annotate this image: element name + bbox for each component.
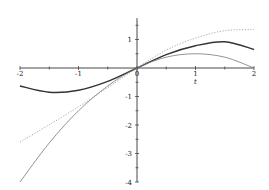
y-tick-label: -4	[125, 179, 132, 187]
x-axis-label: t	[194, 78, 197, 86]
y-tick-label: 1	[128, 36, 132, 44]
x-tick-label: 0	[135, 70, 139, 78]
axes	[20, 18, 254, 182]
x-tick-label: 1	[193, 70, 197, 78]
y-tick-label: -3	[125, 150, 132, 158]
tick-labels: -2-10121-1-2-3-4t	[17, 36, 257, 187]
x-tick-label: 2	[252, 70, 256, 78]
y-tick-label: -1	[125, 93, 132, 101]
y-tick-label: -2	[125, 122, 132, 130]
line-chart: -2-10121-1-2-3-4t	[0, 0, 269, 190]
x-tick-label: -2	[17, 70, 24, 78]
x-tick-label: -1	[75, 70, 82, 78]
